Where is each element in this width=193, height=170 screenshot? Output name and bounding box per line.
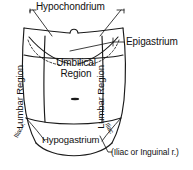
abdominal-regions-diagram: Hypochondrium Epigastrium Umbilical Regi… <box>0 0 193 170</box>
leader-epigastrium <box>70 42 124 51</box>
torso-top-right-edge <box>78 28 123 33</box>
label-iliac-or-inguinal-region: (Iliac or Inguinal r.) <box>111 148 179 157</box>
leader-hypochondrium-right <box>100 10 124 36</box>
umbilicus-marker <box>71 98 79 100</box>
label-hypogastrium: Hypogastrium <box>42 135 99 145</box>
label-hypochondrium: Hypochondrium <box>36 2 105 13</box>
xiphoid-notch <box>70 29 78 33</box>
leader-hypochondrium-left <box>30 10 52 36</box>
division-line-left-vertical <box>44 36 45 122</box>
label-epigastrium: Epigastrium <box>126 37 178 48</box>
